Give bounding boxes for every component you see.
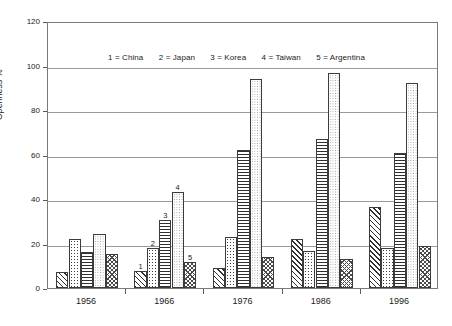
gridline-100 (48, 68, 437, 69)
legend-key-3: 3 (210, 53, 215, 62)
x-tick-label-1986: 1986 (311, 296, 331, 306)
bar-korea-1976 (237, 150, 249, 288)
bar-taiwan-1966 (172, 192, 184, 288)
legend-eq-4: = (268, 53, 273, 62)
bar-japan-1966 (147, 248, 159, 288)
bar-korea-1996 (394, 153, 406, 288)
bar-china-1996 (369, 207, 381, 288)
bar-korea-1966 (159, 220, 171, 288)
y-tick-label-60: 60 (31, 152, 40, 160)
bar-annotation-china-1966: 1 (138, 262, 142, 271)
legend-entry-china: 1 = China (108, 53, 146, 62)
bar-argentina-1956 (106, 254, 118, 288)
legend-label-china: China (122, 53, 143, 62)
bar-argentina-1986 (340, 259, 352, 288)
legend-eq-1: = (115, 53, 120, 62)
bar-annotation-taiwan-1966: 4 (176, 183, 180, 192)
legend-eq-2: = (166, 53, 171, 62)
legend-eq-3: = (217, 53, 222, 62)
y-tick-label-100: 100 (27, 63, 40, 71)
legend-label-japan: Japan (173, 53, 195, 62)
y-tick-label-120: 120 (27, 18, 40, 26)
bar-argentina-1996 (419, 246, 431, 288)
bar-annotation-japan-1966: 2 (151, 239, 155, 248)
x-tick-label-1966: 1966 (154, 296, 174, 306)
bar-china-1986 (291, 239, 303, 288)
y-tick-label-40: 40 (31, 196, 40, 204)
legend: 1 = China 2 = Japan 3 = Korea 4 = Taiwan… (108, 53, 378, 62)
y-axis-title: Openness % (0, 69, 4, 120)
bar-argentina-1976 (262, 257, 274, 288)
plot-area: 1 = China 2 = Japan 3 = Korea 4 = Taiwan… (47, 22, 438, 289)
x-tick-label-1956: 1956 (76, 296, 96, 306)
x-tick-mark-2 (203, 289, 204, 294)
bar-japan-1986 (303, 251, 315, 288)
bar-annotation-korea-1966: 3 (163, 211, 167, 220)
legend-key-1: 1 (108, 53, 113, 62)
legend-entry-argentina: 5 = Argentina (316, 53, 365, 62)
x-tick-label-1976: 1976 (232, 296, 252, 306)
bar-taiwan-1996 (406, 83, 418, 288)
legend-key-2: 2 (159, 53, 164, 62)
bar-japan-1996 (381, 248, 393, 288)
bar-china-1976 (213, 268, 225, 288)
y-tick-mark-0 (43, 289, 47, 290)
legend-entry-japan: 2 = Japan (159, 53, 198, 62)
y-tick-label-20: 20 (31, 241, 40, 249)
x-tick-mark-4 (360, 289, 361, 294)
legend-key-5: 5 (316, 53, 321, 62)
bar-china-1966 (134, 271, 146, 288)
bar-korea-1956 (81, 252, 93, 288)
legend-entry-korea: 3 = Korea (210, 53, 248, 62)
bar-taiwan-1956 (93, 234, 105, 289)
bar-japan-1956 (69, 239, 81, 288)
y-tick-label-0: 0 (36, 285, 40, 293)
bar-china-1956 (56, 272, 68, 288)
x-tick-label-1996: 1996 (389, 296, 409, 306)
legend-label-taiwan: Taiwan (275, 53, 301, 62)
bar-korea-1986 (316, 139, 328, 288)
bar-taiwan-1986 (328, 73, 340, 288)
bar-taiwan-1976 (250, 79, 262, 288)
legend-label-argentina: Argentina (330, 53, 365, 62)
x-tick-mark-1 (125, 289, 126, 294)
legend-key-4: 4 (262, 53, 267, 62)
bar-annotation-argentina-1966: 5 (188, 253, 192, 262)
y-tick-label-80: 80 (31, 107, 40, 115)
legend-entry-taiwan: 4 = Taiwan (262, 53, 304, 62)
legend-eq-5: = (323, 53, 328, 62)
legend-label-korea: Korea (224, 53, 246, 62)
gridline-80 (48, 112, 437, 113)
bar-japan-1976 (225, 237, 237, 288)
bar-chart: Openness % 020406080100120 1 = China 2 =… (0, 0, 452, 326)
x-tick-mark-3 (282, 289, 283, 294)
bar-argentina-1966 (184, 262, 196, 288)
